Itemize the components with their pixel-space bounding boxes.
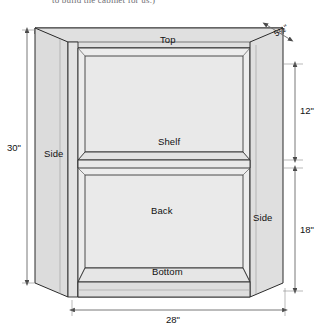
panel-side-left-inner bbox=[68, 42, 78, 297]
diagram-canvas bbox=[0, 0, 330, 335]
dimension-label-width: 28" bbox=[166, 314, 180, 325]
part-label-shelf: Shelf bbox=[158, 136, 180, 147]
cavity-lower bbox=[78, 168, 250, 282]
part-label-top: Top bbox=[160, 34, 176, 45]
cabinet-body bbox=[35, 28, 283, 297]
part-label-back: Back bbox=[151, 205, 173, 216]
dimension-label-height: 30" bbox=[7, 142, 21, 153]
cabinet-diagram: to build the cabinet for us.) bbox=[0, 0, 330, 335]
part-label-side-right: Side bbox=[253, 212, 272, 223]
part-label-bottom: Bottom bbox=[152, 266, 183, 277]
part-label-side-left: Side bbox=[44, 148, 63, 159]
dimension-label-upper: 12" bbox=[300, 105, 314, 116]
panel-shelf bbox=[78, 152, 250, 168]
panel-side-right bbox=[250, 28, 283, 297]
dimension-label-lower: 18" bbox=[300, 224, 314, 235]
panel-side-left bbox=[35, 28, 68, 297]
